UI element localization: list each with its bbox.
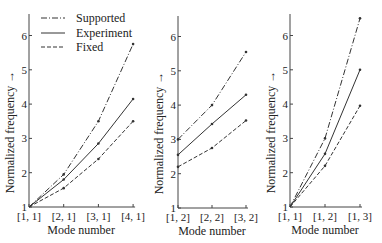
x-tick-label: [1, 1] [17,210,41,222]
figure: 123456[1, 1][2, 1][3, 1][4, 1]Mode numbe… [0,0,382,243]
chart-canvas: 123456[1, 1][2, 1][3, 1][4, 1]Mode numbe… [0,0,382,243]
legend-label: Fixed [76,40,103,54]
data-point [132,43,135,46]
data-point [97,158,100,161]
data-point [62,178,65,181]
data-point [211,104,214,107]
x-tick-label: [1, 1] [278,210,302,222]
legend-label: Supported [76,11,125,25]
legend: SupportedExperimentFixed [41,11,133,54]
data-point [324,165,327,168]
y-axis-label: Normalized frequency → [3,71,17,194]
y-tick-label: 4 [171,99,177,111]
chart-panel-2: 123456[1, 2][2, 2][3, 2]Mode numberNorma… [152,16,258,238]
data-point [97,142,100,145]
data-point [132,120,135,123]
series-line-supported [29,44,133,207]
y-tick-label: 2 [22,167,28,179]
y-tick-label: 6 [171,31,177,43]
x-axis-label: Mode number [178,224,246,238]
series-line-supported [290,18,360,207]
x-axis-label: Mode number [291,223,359,237]
data-point [359,105,362,108]
y-tick-label: 2 [283,167,289,179]
x-tick-label: [4, 1] [121,210,145,222]
y-tick-label: 2 [171,168,177,180]
y-tick-label: 3 [283,132,289,144]
y-tick-label: 3 [22,132,28,144]
y-tick-label: 3 [171,133,177,145]
data-point [62,187,65,190]
chart-panel-3: 123456[1, 1][1, 2][1, 3]Mode numberNorma… [264,14,372,237]
y-tick-label: 5 [283,64,289,76]
y-tick-label: 5 [22,64,28,76]
x-tick-label: [1, 3] [348,210,372,222]
legend-label: Experiment [76,26,133,40]
x-axis-label: Mode number [47,223,115,237]
series-line-fixed [178,121,246,167]
data-point [245,119,248,122]
x-tick-label: [3, 1] [86,210,110,222]
chart-panel-1: 123456[1, 1][2, 1][3, 1][4, 1]Mode numbe… [3,14,145,237]
x-tick-label: [1, 2] [166,211,190,223]
x-tick-label: [2, 1] [52,210,76,222]
data-point [211,123,214,126]
data-point [245,94,248,97]
x-tick-label: [2, 2] [200,211,224,223]
data-point [177,154,180,157]
y-tick-label: 5 [171,65,177,77]
y-tick-label: 6 [283,30,289,42]
x-tick-label: [3, 2] [234,211,258,223]
data-point [245,51,248,54]
y-axis-label: Normalized frequency → [264,71,278,194]
data-point [211,147,214,150]
data-point [324,153,327,156]
y-tick-label: 4 [22,98,28,110]
data-point [62,173,65,176]
y-axis-label: Normalized frequency → [152,72,166,195]
series-line-supported [178,52,246,139]
series-line-experiment [29,99,133,207]
data-point [324,137,327,140]
data-point [132,98,135,101]
y-tick-label: 6 [22,30,28,42]
data-point [177,166,180,169]
data-point [177,138,180,141]
data-point [359,69,362,72]
x-tick-label: [1, 2] [313,210,337,222]
data-point [359,17,362,20]
y-tick-label: 4 [283,98,289,110]
data-point [97,120,100,123]
